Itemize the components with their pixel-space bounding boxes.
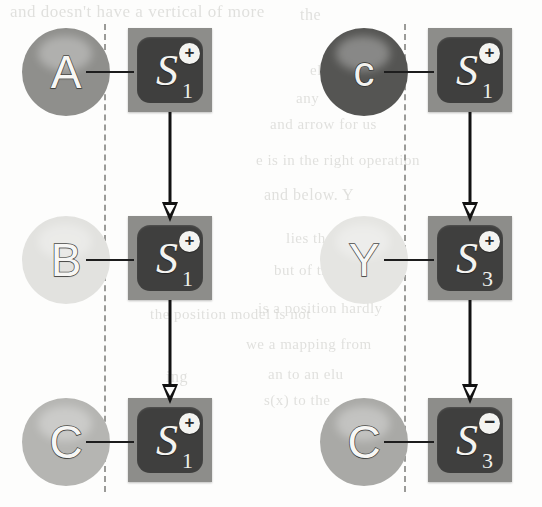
state-symbol: S (156, 416, 178, 465)
arrow-shaft (169, 112, 172, 207)
node-circle-label: c (354, 51, 375, 93)
state-box-left-row-2[interactable]: S + 1 (128, 216, 212, 300)
transition-arrow-right-2-to-3 (461, 300, 479, 404)
state-box-label: S − 3 (456, 419, 478, 463)
transition-arrow-right-1-to-2 (461, 112, 479, 222)
state-box-inner: S + 3 (437, 225, 503, 291)
connector-left-row-3 (86, 441, 134, 443)
bleed-text-line: an to an elu (268, 366, 344, 383)
arrow-head-notch (465, 205, 475, 214)
arrow-head-notch (465, 387, 475, 396)
state-index-subscript: 3 (482, 268, 493, 290)
arrow-shaft (169, 300, 172, 389)
node-circle-label: Y (349, 237, 380, 283)
state-charge-superscript: + (179, 231, 200, 252)
state-symbol: S (156, 46, 178, 95)
bleed-text-line: e is in the right operation (256, 152, 420, 169)
state-box-right-row-2[interactable]: S + 3 (428, 216, 512, 300)
bleed-text-line: and arrow for us (270, 116, 377, 133)
bleed-text-line: any (296, 90, 319, 107)
connector-right-row-3 (384, 441, 434, 443)
node-circle-label: C (347, 419, 380, 465)
state-box-inner: S + 1 (137, 407, 203, 473)
transition-arrow-left-2-to-3 (161, 300, 179, 404)
state-index-subscript: 1 (182, 268, 193, 290)
state-box-left-row-3[interactable]: S + 1 (128, 398, 212, 482)
bleed-text-line: s(x) to the (264, 392, 330, 409)
state-charge-superscript: + (179, 43, 200, 64)
state-box-label: S + 1 (156, 419, 178, 463)
transition-arrow-left-1-to-2 (161, 112, 179, 222)
connector-left-row-1 (86, 71, 134, 73)
state-symbol: S (156, 234, 178, 283)
state-symbol: S (456, 46, 478, 95)
state-box-inner: S + 1 (137, 37, 203, 103)
state-transition-figure: and doesn't have a vertical of moretheel… (0, 0, 542, 507)
bleed-text-line: the (300, 6, 321, 24)
state-box-right-row-1[interactable]: S + 1 (428, 28, 512, 112)
state-charge-superscript: − (479, 413, 500, 434)
state-box-left-row-1[interactable]: S + 1 (128, 28, 212, 112)
arrow-head-notch (165, 205, 175, 214)
state-index-subscript: 1 (482, 80, 493, 102)
state-box-inner: S − 3 (437, 407, 503, 473)
state-box-inner: S + 1 (137, 225, 203, 291)
state-index-subscript: 3 (482, 450, 493, 472)
state-symbol: S (456, 416, 478, 465)
state-box-inner: S + 1 (437, 37, 503, 103)
state-box-label: S + 1 (156, 49, 178, 93)
bleed-text-line: and below. Y (264, 186, 354, 204)
state-box-label: S + 3 (456, 237, 478, 281)
bleed-text-line: we a mapping from (246, 336, 372, 353)
node-circle-label: C (49, 419, 82, 465)
node-circle-label: B (51, 237, 82, 283)
connector-left-row-2 (86, 259, 134, 261)
node-circle-label: A (51, 49, 82, 95)
arrow-head-notch (165, 387, 175, 396)
connector-right-row-2 (384, 259, 434, 261)
arrow-shaft (469, 112, 472, 207)
state-charge-superscript: + (179, 413, 200, 434)
state-index-subscript: 1 (182, 450, 193, 472)
arrow-shaft (469, 300, 472, 389)
state-charge-superscript: + (479, 231, 500, 252)
bleed-text-line: and doesn't have a vertical of more (10, 2, 265, 22)
state-charge-superscript: + (479, 43, 500, 64)
state-box-right-row-3[interactable]: S − 3 (428, 398, 512, 482)
state-index-subscript: 1 (182, 80, 193, 102)
state-box-label: S + 1 (456, 49, 478, 93)
state-symbol: S (456, 234, 478, 283)
state-box-label: S + 1 (156, 237, 178, 281)
connector-right-row-1 (384, 71, 434, 73)
